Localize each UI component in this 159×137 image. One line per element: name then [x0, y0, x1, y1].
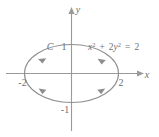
- y-tick-label-negative-1: -1: [61, 104, 69, 115]
- y-axis-group: [68, 7, 74, 131]
- direction-arrow-lower-left-icon: [39, 89, 47, 95]
- x-axis-label: x: [144, 69, 150, 80]
- x-tick-label-positive-2: 2: [119, 77, 124, 88]
- equation-equals-sign: =: [125, 42, 130, 52]
- equation-x-exponent: 2: [92, 41, 95, 48]
- direction-arrow-upper-right-icon: [98, 59, 106, 65]
- x-axis-group: [6, 70, 144, 76]
- x-axis-arrowhead-icon: [137, 70, 144, 76]
- figure-container: x y -2 2 1 -1 C x2+2y2=2: [0, 0, 159, 137]
- equation-plus-sign: +: [99, 42, 104, 52]
- equation-y-exponent: 2: [118, 41, 121, 48]
- y-tick-label-positive-1: 1: [62, 41, 67, 52]
- x-tick-label-negative-2: -2: [18, 77, 26, 88]
- y-axis-arrowhead-icon: [68, 7, 74, 14]
- svg-text:x2+2y2=2: x2+2y2=2: [87, 41, 139, 53]
- direction-arrow-lower-right-icon: [97, 88, 105, 94]
- ellipse-vector-field-figure: x y -2 2 1 -1 C x2+2y2=2: [0, 0, 159, 137]
- y-axis-label: y: [75, 4, 81, 15]
- equation-right-hand-side: 2: [134, 42, 139, 52]
- equation-annotation: x2+2y2=2: [87, 41, 139, 53]
- direction-arrow-upper-left-icon: [38, 58, 46, 63]
- curve-label-c: C: [47, 41, 54, 52]
